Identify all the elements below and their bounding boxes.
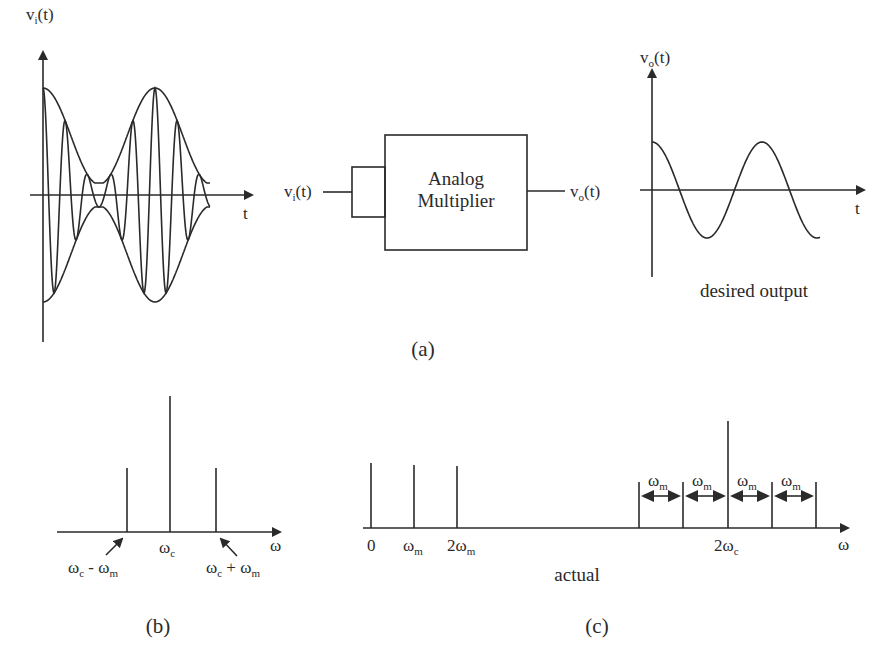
block-title-line1: Analog [428, 168, 484, 189]
upper-sideband-arrow [221, 539, 237, 556]
spacing-arrowhead [730, 490, 743, 502]
tick-2wc: 2ωc [714, 536, 739, 557]
carrier-label: ωc [159, 538, 175, 559]
spacing-arrowhead [801, 490, 814, 502]
figure-canvas: vi(t) t Analog Multiplier vi(t) vo(t) vo… [0, 0, 882, 660]
tick-2wm: 2ωm [447, 536, 476, 557]
lower-sideband-label: ωc - ωm [68, 558, 118, 579]
desired-output-caption: desired output [700, 280, 809, 301]
spacing-label-2: ωm [692, 471, 712, 492]
input-port-box [352, 167, 385, 217]
spacing-arrowhead [641, 490, 654, 502]
input-waveform-plot: vi(t) t [26, 5, 252, 342]
spacing-arrowhead [713, 490, 726, 502]
spacing-label-1: ωm [648, 471, 668, 492]
upper-sideband-label: ωc + ωm [206, 558, 260, 579]
spacing-label-3: ωm [737, 471, 757, 492]
spacing-arrowhead [668, 490, 681, 502]
block-input-label: vi(t) [284, 182, 312, 203]
input-plot-y-label: vi(t) [26, 5, 54, 26]
input-plot-x-label: t [243, 204, 248, 223]
spacing-label-4: ωm [781, 471, 801, 492]
tick-wm: ωm [403, 536, 423, 557]
spacing-arrowhead [774, 490, 787, 502]
omega-label: ω [270, 536, 281, 555]
output-spectrum: 0 ωm 2ωm 2ωc ω actual ωm ωm ωm ωm [363, 421, 849, 585]
block-output-label: vo(t) [570, 182, 600, 203]
actual-caption: actual [554, 564, 599, 585]
omega-label: ω [838, 535, 849, 554]
spacing-arrowhead [685, 490, 698, 502]
block-title-line2: Multiplier [417, 190, 495, 211]
analog-multiplier-block: Analog Multiplier vi(t) vo(t) [284, 135, 600, 250]
spacing-arrowhead [757, 490, 770, 502]
caption-a: (a) [411, 337, 434, 361]
output-plot-y-label: vo(t) [640, 48, 670, 69]
tick-0: 0 [367, 536, 376, 555]
caption-c: (c) [585, 614, 608, 638]
caption-b: (b) [146, 614, 171, 638]
output-waveform-plot: vo(t) t desired output [640, 48, 864, 301]
output-plot-x-label: t [855, 199, 860, 218]
lower-sideband-arrow [106, 539, 122, 555]
input-spectrum: ωc ω ωc - ωm ωc + ωm [57, 396, 281, 579]
